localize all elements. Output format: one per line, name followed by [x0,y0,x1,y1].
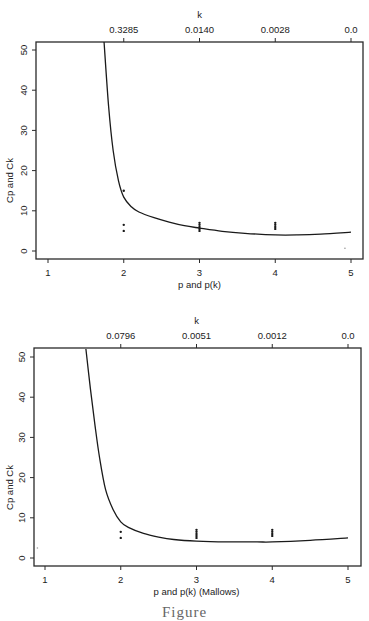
x-axis-top-k: 0.07960.00510.00120.0k [106,315,354,348]
x-tick-label: 4 [270,574,275,585]
data-point [123,190,125,192]
x-tick-label: 1 [42,574,47,585]
top-tick-label: 0.3285 [109,24,138,35]
data-point [271,535,273,537]
top-axis-label: k [194,315,199,326]
data-point [120,531,122,533]
x-axis-top-k: 0.32850.01400.00280.0k [109,9,357,42]
top-tick-label: 0.0051 [182,330,211,341]
top-tick-label: 0.0796 [106,330,135,341]
y-tick-label: 50 [16,352,27,363]
x-tick-label: 5 [345,574,350,585]
y-tick-label: 40 [18,85,29,96]
top-axis-label: k [197,9,202,20]
data-point [198,230,200,232]
y-tick-label: 10 [18,206,29,217]
y-axis-label: Cp and Ck [4,465,15,510]
top-tick-label: 0.0012 [258,330,287,341]
data-point [123,224,125,226]
x-axis-bottom: 12345p and p(k) (Mallows) [42,566,350,597]
top-tick-label: 0.0140 [185,24,214,35]
x-tick-label: 2 [121,267,126,278]
y-axis: 01020304050Cp and Ck [4,352,34,561]
cp-points [37,529,274,549]
top-tick-label: 0.0028 [261,24,290,35]
chart-panel-bottom: 12345p and p(k) (Mallows)0.07960.00510.0… [4,315,361,597]
y-tick-label: 20 [18,165,29,176]
y-axis: 01020304050Cp and Ck [4,45,36,254]
ck-curve [104,42,351,235]
x-tick-label: 3 [194,574,199,585]
chart-panel-top: 12345p and p(k)0.32850.01400.00280.0k010… [4,9,363,290]
data-point [274,228,276,230]
cp-points [123,190,346,249]
data-point [195,537,197,539]
y-tick-label: 50 [18,45,29,56]
data-point [37,547,39,549]
x-tick-label: 2 [118,574,123,585]
data-point [344,247,346,249]
data-point [123,230,125,232]
y-tick-label: 30 [18,125,29,136]
x-tick-label: 1 [45,267,50,278]
y-tick-label: 0 [18,248,29,253]
y-axis-label: Cp and Ck [4,158,15,203]
y-tick-label: 0 [16,555,27,560]
x-axis-bottom: 12345p and p(k) [45,259,353,290]
x-axis-label: p and p(k) [178,279,221,290]
y-tick-label: 20 [16,472,27,483]
y-tick-label: 10 [16,513,27,524]
data-point [120,537,122,539]
y-tick-label: 30 [16,432,27,443]
y-tick-label: 40 [16,392,27,403]
ck-curve [86,349,348,542]
x-tick-label: 4 [273,267,278,278]
top-tick-label: 0.0 [341,330,354,341]
x-axis-label: p and p(k) (Mallows) [153,586,239,597]
x-tick-label: 3 [197,267,202,278]
x-tick-label: 5 [348,267,353,278]
top-tick-label: 0.0 [344,24,357,35]
figure-caption: Figure [0,604,369,621]
